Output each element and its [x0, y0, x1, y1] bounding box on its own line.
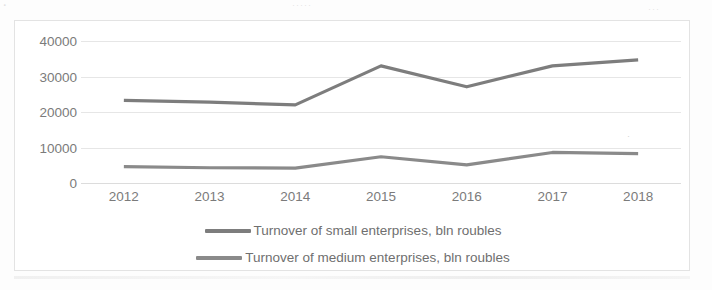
chart-screenshot: . ····· ··· 010000200003000040000 201220…: [0, 0, 712, 290]
legend-label: Turnover of medium enterprises, bln roub…: [245, 250, 509, 265]
y-axis-tick-40000: 40000: [39, 34, 77, 49]
top-crop-artifacts: . ····· ···: [0, 0, 712, 20]
crop-fragment-right: ···: [648, 4, 660, 14]
x-axis-tick-2016: 2016: [452, 189, 482, 204]
stray-mark: ·: [627, 131, 630, 141]
legend-item-medium[interactable]: Turnover of medium enterprises, bln roub…: [15, 244, 691, 271]
series-lines: [81, 41, 681, 183]
legend-swatch-icon: [205, 229, 251, 233]
y-axis-tick-30000: 30000: [39, 69, 77, 84]
legend-label: Turnover of small enterprises, bln roubl…: [254, 223, 502, 238]
chart-frame: 010000200003000040000 201220132014201520…: [14, 20, 690, 271]
x-axis-tick-2013: 2013: [195, 189, 225, 204]
plot-area: [81, 41, 681, 183]
x-axis-tick-2017: 2017: [537, 189, 567, 204]
y-axis-tick-0: 0: [69, 176, 77, 191]
y-axis-tick-10000: 10000: [39, 140, 77, 155]
x-axis-tick-2018: 2018: [623, 189, 653, 204]
crop-fragment-center: ·····: [292, 0, 312, 10]
gridline-0: [81, 183, 681, 184]
legend-swatch-icon: [196, 256, 242, 260]
series-line-small: [124, 60, 638, 105]
x-axis-tick-2012: 2012: [109, 189, 139, 204]
y-axis-labels: 010000200003000040000: [21, 41, 77, 183]
series-line-medium: [124, 152, 638, 168]
x-axis-tick-2014: 2014: [280, 189, 310, 204]
x-axis-tick-2015: 2015: [366, 189, 396, 204]
legend-item-small[interactable]: Turnover of small enterprises, bln roubl…: [15, 217, 691, 244]
y-axis-tick-20000: 20000: [39, 105, 77, 120]
bottom-scan-artifact: [14, 276, 690, 279]
x-axis-labels: 2012201320142015201620172018: [81, 189, 681, 211]
crop-fragment-left: .: [3, 0, 8, 10]
chart-legend: Turnover of small enterprises, bln roubl…: [15, 217, 691, 271]
